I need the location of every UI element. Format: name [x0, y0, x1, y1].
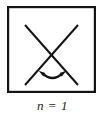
figure-caption: n = 1 — [0, 98, 105, 113]
figure-container: n = 1 — [0, 0, 105, 117]
